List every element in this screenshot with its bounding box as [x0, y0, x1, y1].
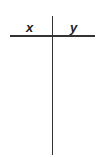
column-header-y: y [70, 21, 77, 34]
column-divider-line [52, 16, 53, 155]
column-header-x: x [26, 21, 33, 34]
